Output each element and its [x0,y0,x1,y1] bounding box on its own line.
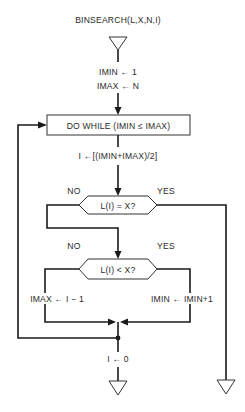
decision2-label: L(I) < X? [101,265,136,275]
decision2-yes-label: YES [157,241,175,251]
not-found-action-label: I ← 0 [107,354,129,364]
decision1-no-label: NO [67,186,80,196]
decision1-no-arrowhead [115,251,122,259]
start-connector-triangle [109,37,127,50]
decision1-yes-label: YES [157,186,175,196]
midpoint-to-decision1-arrowhead [115,188,122,196]
midpoint-label: I ←[(IMIN+IMAX)/2] [79,151,158,161]
flowchart: BINSEARCH(L,X,N,I) IMIN ← 1 IMAX ← N DO … [0,0,245,412]
init-imin-label: IMIN ← 1 [99,67,137,77]
no-branch-action-label: IMAX ← I − 1 [30,294,84,304]
init-to-loop-arrowhead [115,107,122,115]
yes-branch-action-label: IMIN ← IMIN+1 [151,294,213,304]
decision1-label: L(I) = X? [101,201,136,211]
decision2-no-label: NO [67,241,80,251]
loop-box-label: DO WHILE (IMIN ≤ IMAX) [67,121,171,131]
flowchart-title: BINSEARCH(L,X,N,I) [75,15,161,25]
init-imax-label: IMAX ← N [97,81,139,91]
decision2-no-arrowhead [108,319,116,326]
decision2-yes-arrowhead [120,319,128,326]
junction-dot [116,336,121,341]
exit-connector-not-found-triangle [109,381,127,395]
loop-back-arrowhead [38,122,47,129]
exit-connector-found-triangle [217,380,235,394]
decision1-yes-branch-line [157,205,226,380]
